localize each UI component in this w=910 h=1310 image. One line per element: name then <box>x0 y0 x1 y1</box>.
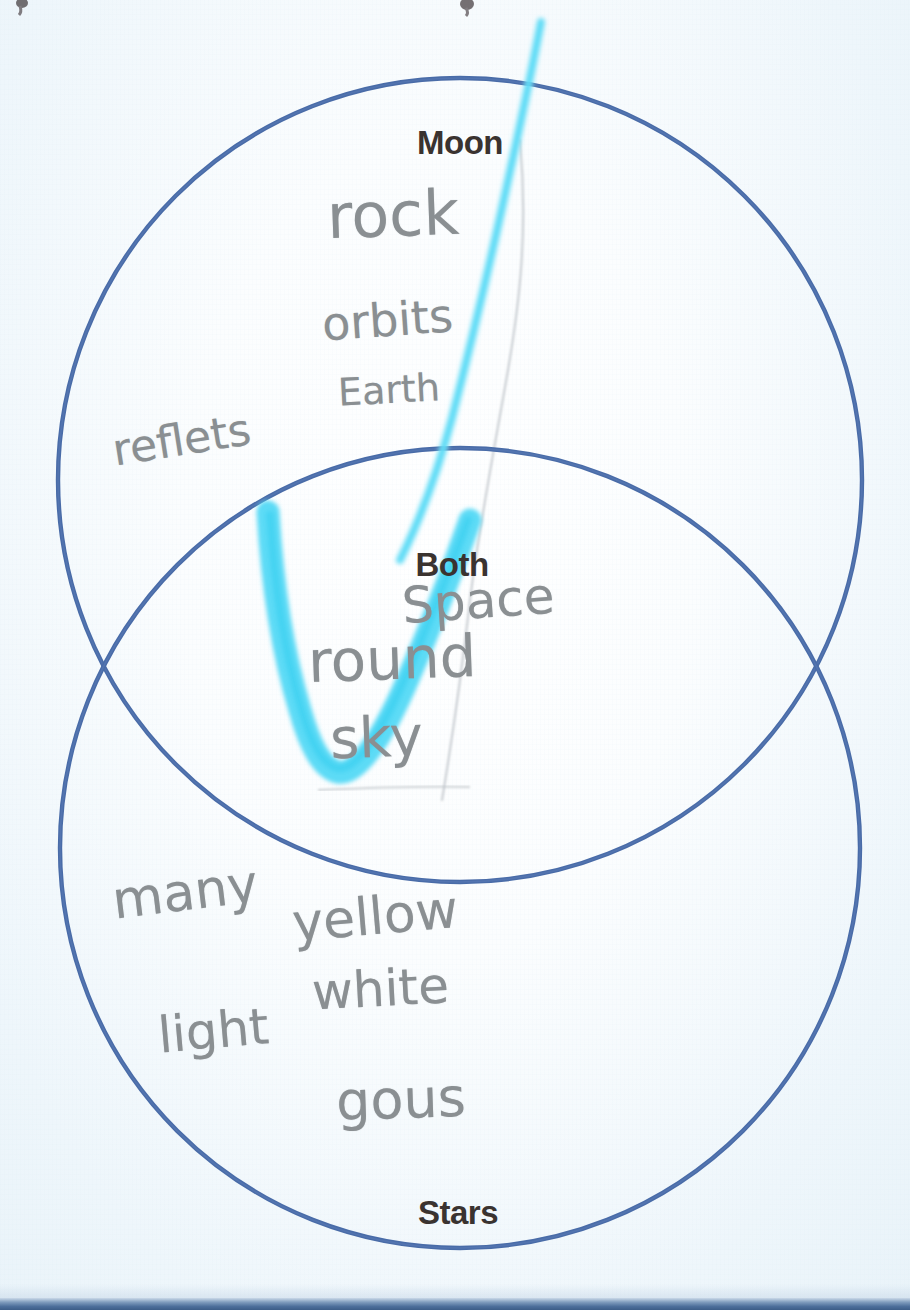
venn-label-moon: Moon <box>417 124 503 162</box>
venn-circle-moon <box>58 78 862 882</box>
handwritten-word-stars-3: white <box>311 956 451 1021</box>
scanned-worksheet-page: Moon Both Stars rock orbits Earth reflet… <box>0 0 910 1310</box>
handwritten-word-both-3: sky <box>329 703 424 771</box>
handwritten-word-moon-3: Earth <box>337 365 441 414</box>
handwritten-word-moon-1: rock <box>326 176 461 254</box>
handwritten-word-moon-2: orbits <box>320 288 454 351</box>
scanner-edge-band <box>0 1298 910 1310</box>
handwritten-word-both-2: round <box>307 622 478 696</box>
handwritten-word-stars-5: gous <box>335 1066 467 1133</box>
scanner-edge-shadow <box>0 1284 910 1298</box>
venn-label-stars: Stars <box>418 1194 498 1232</box>
handwritten-word-stars-4: light <box>156 997 271 1064</box>
faint-pencil-underline <box>318 787 470 790</box>
cropped-heading-remnant <box>16 0 474 16</box>
